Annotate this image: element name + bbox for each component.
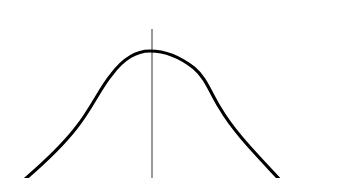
bell-curve-diagram xyxy=(0,0,359,178)
